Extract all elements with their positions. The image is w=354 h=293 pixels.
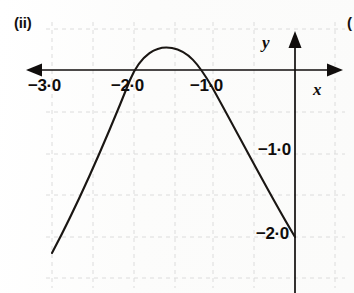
x-axis-label: x (313, 80, 322, 100)
graph-canvas (0, 0, 354, 293)
y-axis-arrow-up (289, 31, 302, 48)
x-tick-label-minus-2: −2·0 (111, 76, 144, 96)
figure-panel: (ii) ( (0, 0, 354, 293)
y-tick-label-minus-1: −1·0 (258, 140, 291, 160)
y-axis-label: y (262, 33, 270, 53)
x-tick-label-minus-3: −3·0 (28, 76, 61, 96)
y-tick-label-minus-2: −2·0 (256, 224, 289, 244)
x-axis-arrow-left (26, 64, 42, 77)
x-tick-label-minus-1: −1·0 (190, 76, 223, 96)
